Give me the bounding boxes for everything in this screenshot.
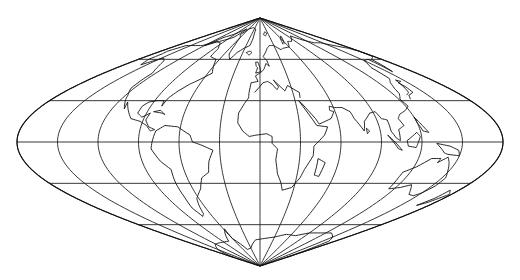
coastline-australia — [389, 157, 449, 196]
coastline-iceland — [246, 51, 252, 55]
coastline-madagascar — [314, 159, 325, 177]
sinusoidal-world-map — [0, 0, 520, 280]
coastline-svalbard — [263, 32, 266, 36]
graticule — [17, 18, 503, 266]
coastline-borneo — [407, 132, 420, 147]
coastline-japan — [396, 80, 413, 99]
coastline-south-america — [151, 125, 213, 216]
coastline-philippines — [414, 117, 429, 132]
coastline-cuba — [154, 110, 165, 114]
coastline-new-guinea — [437, 143, 460, 155]
coastline-sri-lanka — [366, 128, 369, 134]
coastline-antarctica — [215, 229, 332, 258]
